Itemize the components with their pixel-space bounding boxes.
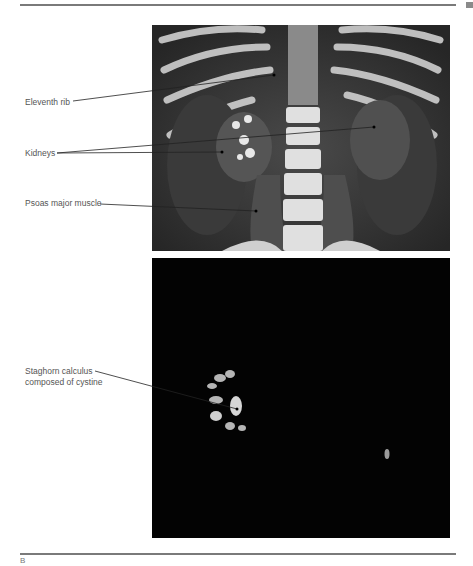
label-psoas-major-muscle: Psoas major muscle (25, 198, 102, 209)
label-eleventh-rib: Eleventh rib (25, 97, 70, 108)
label-staghorn-line2: composed of cystine (25, 377, 102, 388)
caption-fragment: B (20, 556, 450, 566)
label-kidneys: Kidneys (25, 148, 55, 159)
label-staghorn-calculus: Staghorn calculus composed of cystine (25, 366, 102, 387)
label-staghorn-line1: Staghorn calculus (25, 366, 102, 377)
bottom-rule (20, 553, 456, 555)
